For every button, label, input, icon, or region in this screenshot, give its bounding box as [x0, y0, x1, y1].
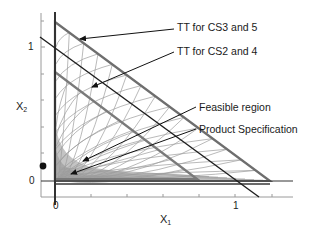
label-tt-cs3-5: TT for CS3 and 5: [177, 22, 257, 33]
y-tick-1: 1: [28, 42, 34, 52]
y-axis-label: X2: [16, 101, 27, 113]
x-axis-label: X1: [160, 214, 171, 226]
y-tick-0: 0: [29, 176, 35, 186]
label-feasible-region: Feasible region: [199, 102, 271, 113]
x-tick-0: 0: [53, 201, 59, 211]
reference-point: [40, 163, 47, 170]
arrow-tt-cs3-5: [80, 29, 174, 39]
label-product-specification: Product Specification: [199, 124, 298, 135]
ternary-tie-line-diagram: [0, 0, 311, 238]
x-tick-1: 1: [233, 201, 239, 211]
label-tt-cs2-4: TT for CS2 and 4: [177, 46, 257, 57]
